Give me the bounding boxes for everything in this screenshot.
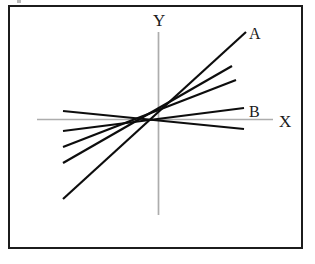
coordinate-plane-figure: Y X A B — [0, 0, 315, 264]
line-label-a: A — [249, 25, 261, 42]
x-axis-label: X — [279, 112, 291, 131]
figure-frame — [9, 6, 302, 248]
line-label-b: B — [249, 103, 260, 120]
figure-root: Y X A B — [0, 0, 315, 264]
y-axis-label: Y — [153, 11, 165, 30]
